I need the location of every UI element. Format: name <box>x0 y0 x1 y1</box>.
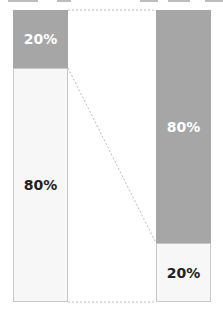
right-top-label: 80% <box>167 119 201 135</box>
right-bar-bottom-segment: 20% <box>156 243 211 302</box>
right-bar: 80% 20% <box>156 10 211 302</box>
left-bar: 20% 80% <box>13 10 68 302</box>
left-bar-bottom-segment: 80% <box>13 68 68 302</box>
right-bottom-label: 20% <box>167 265 201 281</box>
left-bottom-label: 80% <box>24 177 58 193</box>
left-bar-top-segment: 20% <box>13 10 68 68</box>
left-top-label: 20% <box>24 31 58 47</box>
right-bar-top-segment: 80% <box>156 10 211 243</box>
middle-connector <box>68 68 156 243</box>
